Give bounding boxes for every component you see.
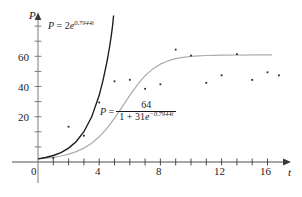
y-axis-label: P: [29, 9, 36, 21]
data-point: [129, 79, 131, 81]
data-point: [251, 79, 253, 81]
x-axis: [12, 158, 291, 165]
x-axis-label: t: [288, 166, 291, 178]
data-point: [144, 88, 146, 90]
y-tick-label-40: 40: [18, 81, 29, 93]
data-point: [278, 74, 280, 76]
y-tick-label-60: 60: [18, 51, 29, 63]
x-tick-label-12: 12: [214, 165, 225, 177]
logistic-eq-lhs: P: [100, 106, 106, 117]
exponential-equation-label: P = 2e0.7944t: [48, 20, 94, 31]
logistic-den-lead: 1 + 31: [119, 111, 145, 122]
population-growth-chart: P t 0 4 8 12 16 20 40 60 P = 2e0.7944t P…: [0, 0, 302, 197]
exponential-curve: [38, 16, 114, 159]
data-point: [236, 53, 238, 55]
exp-eq-exponent: 0.7944t: [74, 19, 94, 26]
x-tick-label-0: 0: [31, 165, 37, 177]
data-point: [267, 71, 269, 73]
data-point: [160, 83, 162, 85]
data-point: [221, 74, 223, 76]
data-point: [114, 80, 116, 82]
plot-canvas: [0, 0, 302, 197]
data-point: [52, 157, 54, 159]
x-tick-label-8: 8: [156, 165, 162, 177]
logistic-denominator: 1 + 31e−0.7944t: [116, 111, 176, 123]
data-point: [83, 135, 85, 137]
logistic-eq-equals: =: [109, 106, 115, 117]
data-point: [68, 126, 70, 128]
exp-eq-lhs: P: [48, 20, 54, 31]
data-point: [175, 49, 177, 51]
logistic-eq-head: P =: [100, 106, 116, 117]
data-point: [205, 82, 207, 84]
logistic-equation-label: P = 64 1 + 31e−0.7944t: [100, 100, 176, 123]
y-tick-label-20: 20: [18, 111, 29, 123]
y-axis: [35, 13, 42, 184]
x-tick-label-4: 4: [95, 165, 101, 177]
logistic-fraction: 64 1 + 31e−0.7944t: [116, 100, 176, 123]
data-point: [190, 55, 192, 57]
logistic-den-exponent: −0.7944t: [149, 109, 173, 116]
x-tick-label-16: 16: [260, 165, 271, 177]
exp-eq-equals: =: [57, 20, 63, 31]
